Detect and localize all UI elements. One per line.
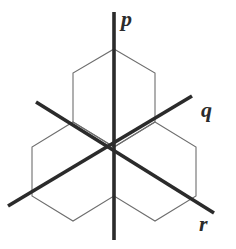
axis-label-q: q (201, 99, 212, 121)
figure-container: p q r (0, 0, 236, 249)
axis-label-p: p (121, 8, 132, 30)
hexagon-lower-left (32, 122, 114, 221)
axis-line-r (36, 102, 214, 213)
axis-line-q (8, 96, 192, 206)
axis-group (8, 12, 214, 240)
axis-label-r: r (199, 213, 208, 235)
